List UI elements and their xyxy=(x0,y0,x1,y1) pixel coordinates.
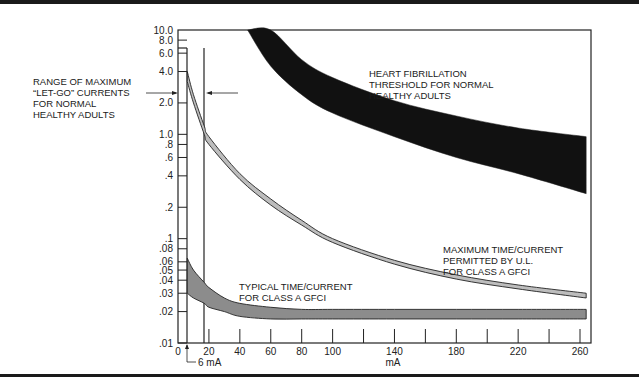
y-tick-label: 8.0 xyxy=(159,35,173,46)
let-go-line-3: FOR NORMAL xyxy=(33,98,96,109)
y-tick-label: .02 xyxy=(159,306,173,317)
fibrillation-line-1: HEART FIBRILLATION xyxy=(369,68,467,79)
y-tick-label: 4.0 xyxy=(159,66,173,77)
x-tick-label: 140 xyxy=(386,346,403,357)
y-tick-label: .4 xyxy=(165,170,174,181)
typical-line-1: TYPICAL TIME/CURRENT xyxy=(239,281,353,292)
fibrillation-line-2: THRESHOLD FOR NORMAL xyxy=(369,79,494,90)
typical-annotation: TYPICAL TIME/CURRENT FOR CLASS A GFCI xyxy=(239,281,353,303)
y-tick-label: .03 xyxy=(159,288,173,299)
x-axis-unit: mA xyxy=(386,357,401,368)
arrowhead-left-icon xyxy=(172,91,178,95)
arrowhead-up-icon xyxy=(185,344,189,349)
six-ma-label: 6 mA xyxy=(198,357,222,368)
arrowhead-right-icon xyxy=(206,91,212,95)
y-tick-label: .2 xyxy=(165,202,174,213)
fibrillation-band xyxy=(248,28,587,194)
x-tick-label: 260 xyxy=(572,346,589,357)
top-border-rule xyxy=(0,0,639,4)
gfci-time-current-chart: 10.08.06.04.02.01.0.8.6.4.2.1.08.06.05.0… xyxy=(0,0,639,392)
y-tick-label: .08 xyxy=(159,243,173,254)
let-go-line-1: RANGE OF MAXIMUM xyxy=(33,76,131,87)
let-go-line-4: HEALTHY ADULTS xyxy=(33,109,115,120)
let-go-annotation: RANGE OF MAXIMUM “LET-GO” CURRENTS FOR N… xyxy=(33,76,131,120)
x-tick-label: 60 xyxy=(265,346,277,357)
y-tick-label: .8 xyxy=(165,139,174,150)
x-tick-label: 20 xyxy=(203,346,215,357)
x-tick-label: 180 xyxy=(448,346,465,357)
ul-max-line-2: PERMITTED BY U.L. xyxy=(443,255,533,266)
y-tick-label: 6.0 xyxy=(159,48,173,59)
ul-max-line-1: MAXIMUM TIME/CURRENT xyxy=(443,244,563,255)
y-axis-ticks: 10.08.06.04.02.01.0.8.6.4.2.1.08.06.05.0… xyxy=(154,25,187,349)
fibrillation-line-3: HEALTHY ADULTS xyxy=(369,90,451,101)
let-go-line-2: “LET-GO” CURRENTS xyxy=(33,87,130,98)
bottom-border-rule xyxy=(0,374,639,377)
x-tick-label: 80 xyxy=(296,346,308,357)
y-tick-label: .6 xyxy=(165,152,174,163)
fibrillation-annotation: HEART FIBRILLATION THRESHOLD FOR NORMAL … xyxy=(369,68,494,101)
y-tick-label: 2.0 xyxy=(159,97,173,108)
x-tick-label: 100 xyxy=(324,346,341,357)
x-tick-label: 40 xyxy=(234,346,246,357)
y-tick-label: .01 xyxy=(159,338,173,349)
y-tick-label: .04 xyxy=(159,275,173,286)
x-tick-label: 220 xyxy=(510,346,527,357)
ul-max-line-3: FOR CLASS A GFCI xyxy=(443,266,530,277)
ul-max-annotation: MAXIMUM TIME/CURRENT PERMITTED BY U.L. F… xyxy=(443,244,563,277)
typical-line-2: FOR CLASS A GFCI xyxy=(239,292,326,303)
x-tick-label: 0 xyxy=(175,346,181,357)
